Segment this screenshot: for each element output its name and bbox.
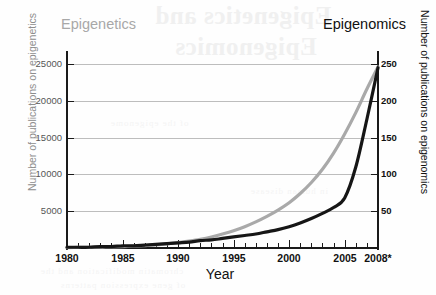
chart-figure: Epigenetics and Epigenomics of the epige… <box>0 0 436 295</box>
plot-curves <box>0 0 436 295</box>
y-axis-right-title: Number of publications on epigenomics <box>419 0 431 210</box>
y-axis-left-title: Number of publications on epigenetics <box>26 0 38 210</box>
x-axis-title: Year <box>150 266 290 282</box>
series-line-epigenetics <box>67 67 378 248</box>
